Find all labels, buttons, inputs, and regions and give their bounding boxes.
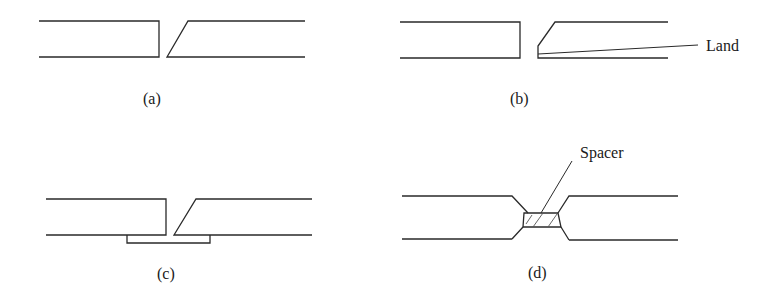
panel-d: Spacer (d): [402, 144, 678, 282]
panel-b-caption: (b): [510, 90, 529, 108]
panel-d-left-plate: [402, 196, 528, 239]
panel-d-caption: (d): [528, 264, 547, 282]
panel-c-caption: (c): [157, 265, 175, 283]
panel-a-caption: (a): [143, 90, 161, 108]
panel-b: Land (b): [400, 22, 739, 108]
panel-b-land-label: Land: [706, 37, 739, 54]
panel-d-spacer-leader: [541, 161, 572, 213]
panel-a: (a): [39, 21, 305, 108]
panel-d-spacer-hatch: [526, 213, 557, 227]
panel-b-left-plate: [400, 22, 520, 58]
panel-d-spacer-label: Spacer: [580, 144, 624, 162]
weld-joint-diagram: (a) Land (b) (c) Spacer (d): [0, 0, 778, 296]
panel-c: (c): [46, 199, 312, 283]
panel-c-backing-strip: [127, 235, 210, 243]
panel-a-left-plate: [39, 21, 159, 57]
panel-c-left-plate: [46, 199, 166, 235]
panel-d-right-plate: [558, 196, 678, 240]
panel-b-land-leader: [538, 45, 698, 54]
panel-c-right-plate: [174, 199, 312, 235]
panel-a-right-plate: [167, 21, 305, 57]
